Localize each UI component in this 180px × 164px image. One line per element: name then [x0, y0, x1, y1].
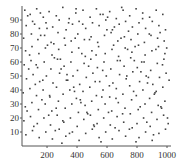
data-point — [165, 128, 167, 130]
data-point — [56, 114, 58, 116]
data-point — [26, 78, 28, 80]
data-point — [81, 53, 83, 55]
data-point — [132, 26, 134, 28]
data-point — [72, 75, 74, 77]
data-point — [37, 123, 39, 125]
data-point — [52, 26, 54, 28]
data-point — [138, 137, 140, 139]
data-point — [75, 12, 77, 14]
data-point — [65, 135, 67, 137]
data-point — [87, 113, 89, 115]
data-point — [40, 12, 42, 14]
data-point — [57, 58, 59, 60]
x-tick-label: 1000 — [158, 150, 177, 160]
data-point — [28, 68, 30, 70]
data-point — [133, 91, 135, 93]
data-point — [64, 37, 66, 39]
data-point — [89, 16, 91, 18]
data-point — [49, 95, 51, 97]
data-point — [152, 84, 154, 86]
y-tick-label: 50 — [10, 71, 20, 81]
data-point — [156, 119, 158, 121]
data-point — [149, 33, 151, 35]
data-point — [41, 99, 43, 101]
data-point — [137, 33, 139, 35]
data-point — [30, 116, 32, 118]
data-point — [58, 100, 60, 102]
data-point — [167, 123, 169, 125]
data-point — [124, 36, 126, 38]
data-point — [104, 35, 106, 37]
data-point — [151, 112, 153, 114]
data-point — [118, 130, 120, 132]
data-point — [152, 21, 154, 23]
data-point — [98, 137, 100, 139]
data-point — [70, 61, 72, 63]
y-tick-label: 70 — [10, 43, 20, 53]
data-point — [72, 131, 74, 133]
data-point — [115, 98, 117, 100]
data-point — [119, 74, 121, 76]
data-point — [103, 117, 105, 119]
data-point — [25, 134, 27, 136]
data-point — [23, 120, 25, 122]
data-point — [124, 47, 126, 49]
data-point — [25, 106, 27, 108]
data-point — [23, 64, 25, 66]
data-point — [71, 51, 73, 53]
data-point — [36, 95, 38, 97]
data-point — [50, 124, 52, 126]
data-point — [123, 65, 125, 67]
data-point — [131, 127, 133, 129]
data-point — [62, 120, 64, 122]
y-ticks: 102030405060708090 — [10, 15, 22, 137]
data-point — [90, 36, 92, 38]
data-point — [51, 54, 53, 56]
x-tick-label: 600 — [100, 150, 114, 160]
y-tick-label: 90 — [10, 15, 20, 25]
data-point — [35, 64, 37, 66]
points-layer — [22, 7, 170, 144]
data-point — [55, 107, 57, 109]
data-point — [116, 18, 118, 20]
data-point — [95, 54, 97, 56]
data-point — [47, 44, 49, 46]
data-point — [82, 23, 84, 25]
data-point — [44, 35, 46, 37]
data-point — [110, 68, 112, 70]
data-point — [58, 49, 60, 51]
data-point — [52, 138, 54, 140]
data-point — [107, 16, 109, 18]
data-point — [76, 98, 78, 100]
data-point — [130, 57, 132, 59]
data-point — [158, 25, 160, 27]
data-point — [43, 16, 45, 18]
data-point — [114, 26, 116, 28]
data-point — [56, 15, 58, 17]
data-point — [96, 8, 98, 10]
data-point — [155, 91, 157, 93]
data-point — [66, 74, 68, 76]
data-point — [162, 14, 164, 16]
data-point — [99, 81, 101, 83]
data-point — [91, 50, 93, 52]
data-point — [111, 49, 113, 51]
data-point — [145, 75, 147, 77]
data-point — [63, 65, 65, 67]
data-point — [146, 121, 148, 123]
data-point — [160, 106, 162, 108]
data-point — [154, 93, 156, 95]
data-point — [49, 96, 51, 98]
data-point — [68, 22, 70, 24]
data-point — [44, 103, 46, 105]
data-point — [90, 58, 92, 60]
data-point — [96, 123, 98, 125]
data-point — [36, 8, 38, 10]
data-point — [121, 7, 123, 9]
data-point — [157, 37, 159, 39]
data-point — [72, 23, 74, 25]
data-point — [69, 133, 71, 135]
x-tick-label: 200 — [40, 150, 54, 160]
data-point — [32, 74, 34, 76]
data-point — [112, 138, 114, 140]
